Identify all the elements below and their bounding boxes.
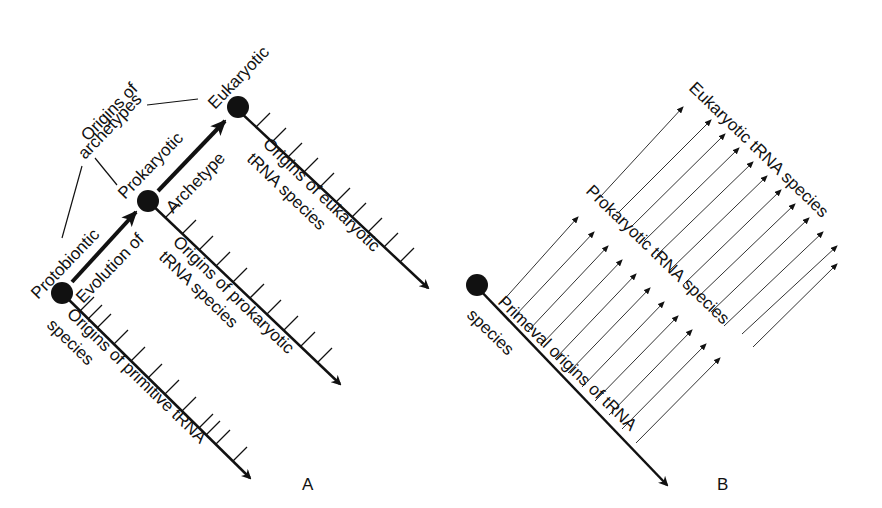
panel-a: Origins of archetypes Protobiontic Proka…: [27, 42, 428, 494]
node-primeval: [466, 274, 488, 296]
label-primeval-1: Primeval origins of tRNA: [494, 292, 641, 435]
label-archetype: Archetype: [162, 149, 229, 217]
panel-b: Primeval origins of tRNA species Prokary…: [463, 78, 837, 494]
label-axis-prokaryotic-1: Origins of prokaryotic: [169, 232, 298, 358]
connector-protobiontic: [62, 166, 82, 238]
connector-prokaryotic: [95, 158, 117, 185]
panel-label-a: A: [302, 475, 314, 494]
label-eukaryotic-trna: Eukaryotic tRNA species: [685, 78, 832, 221]
node-prokaryotic: [137, 190, 159, 212]
panel-label-b: B: [717, 475, 728, 494]
connector-eukaryotic: [147, 99, 198, 105]
label-axis-primitive-1: Origins of primitive tRNA: [63, 304, 211, 447]
trna-origins-diagram: Origins of archetypes Protobiontic Proka…: [0, 0, 882, 508]
